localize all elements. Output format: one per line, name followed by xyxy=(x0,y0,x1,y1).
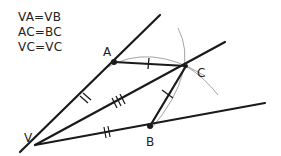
arc-from-v xyxy=(106,57,205,76)
label-c: C xyxy=(197,66,205,80)
label-v: V xyxy=(24,131,33,145)
point-b xyxy=(147,123,153,129)
angle-bisector-construction: V A C B xyxy=(0,0,281,156)
ray-vc xyxy=(35,42,225,145)
point-a xyxy=(111,59,117,65)
point-c xyxy=(184,64,188,68)
ray-va xyxy=(20,15,160,152)
tick-ac xyxy=(148,58,149,69)
segment-ac xyxy=(114,62,186,66)
label-a: A xyxy=(103,45,112,59)
label-b: B xyxy=(146,135,154,149)
segment-bc xyxy=(150,66,186,126)
